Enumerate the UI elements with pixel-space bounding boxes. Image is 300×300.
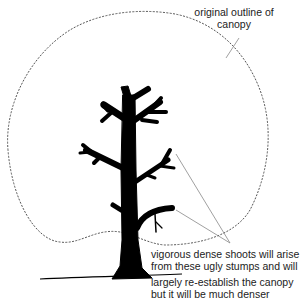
shoots-label-line3: largely re-establish the canopy — [151, 276, 299, 288]
shoots-label-line2: from these ugly stumps and will — [151, 260, 299, 272]
canopy-outline — [8, 11, 269, 245]
leader-shoots-2 — [176, 210, 230, 243]
shoots-label-line1: vigorous dense shoots will arise — [151, 248, 299, 260]
canopy-outline-label: original outline of canopy — [180, 6, 288, 30]
canopy-outline-label-line1: original outline of — [180, 6, 288, 18]
canopy-outline-label-line2: canopy — [180, 18, 288, 30]
shoots-label: vigorous dense shoots will arise from th… — [151, 248, 299, 300]
leader-shoots-1 — [176, 154, 230, 243]
shoots-label-line4: but it will be much denser — [151, 288, 299, 300]
